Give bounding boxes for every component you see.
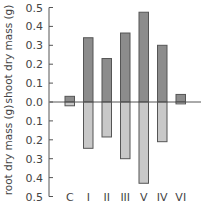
mirrored-bar-chart: 0.00.10.20.30.40.50.10.20.30.40.5 CIIIII… [0,0,205,207]
shoot-bar [176,94,186,102]
y-tick-label: 0.5 [26,2,44,15]
y-tick-label: 0.2 [26,134,44,147]
category-labels: CIIIIIIVIVVI [66,191,186,204]
root-bar [65,102,75,106]
shoot-bar [84,38,94,102]
root-bar [139,102,149,183]
y-axis: 0.00.10.20.30.40.50.10.20.30.40.5 [26,2,54,204]
y-tick-label: 0.3 [26,153,44,166]
category-label: III [120,191,130,204]
category-label: I [87,191,90,204]
root-bar [84,102,94,148]
shoot-bar [158,45,168,102]
category-label: VI [175,191,186,204]
y-tick-label: 0.1 [26,115,44,128]
y-tick-label: 0.1 [26,77,44,90]
shoot-bar [139,12,149,102]
category-label: II [104,191,111,204]
root-bar [102,102,112,137]
y-tick-label: 0.4 [26,172,44,185]
shoot-axis-title: shoot dry mass (g) [2,5,14,104]
y-tick-label: 0.0 [26,96,44,109]
y-tick-label: 0.4 [26,20,44,33]
category-label: IV [157,191,168,204]
y-tick-label: 0.2 [26,58,44,71]
y-tick-label: 0.5 [26,191,44,204]
shoot-bar [121,33,131,102]
y-tick-label: 0.3 [26,39,44,52]
category-label: C [66,191,74,204]
shoot-bar [102,59,112,102]
root-bar [121,102,131,159]
root-bar [158,102,168,142]
root-axis-title: root dry mass (g) [2,105,14,196]
shoot-bar [65,96,75,102]
category-label: V [140,191,148,204]
bars [65,12,186,183]
